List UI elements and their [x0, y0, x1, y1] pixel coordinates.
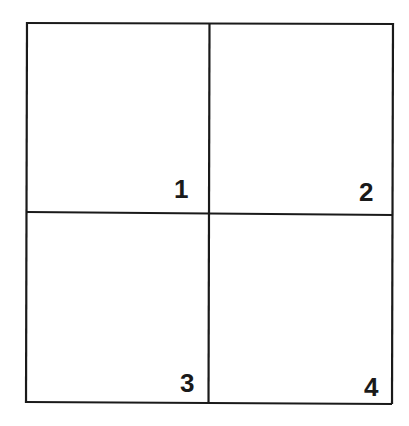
right-border	[392, 23, 393, 404]
quadrant-grid	[0, 0, 409, 426]
center-horizontal-divider	[27, 212, 393, 215]
cell-label-1: 1	[174, 176, 188, 202]
left-border	[26, 22, 27, 403]
cell-label-4: 4	[364, 374, 378, 400]
cell-label-2: 2	[359, 179, 373, 205]
cell-label-3: 3	[180, 370, 194, 396]
